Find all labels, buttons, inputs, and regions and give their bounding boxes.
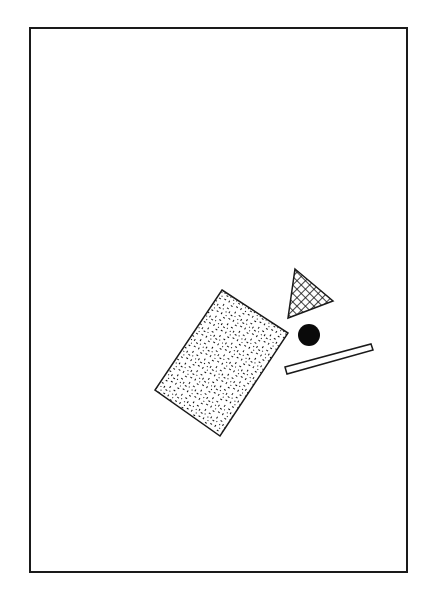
- diagram-canvas: [0, 0, 426, 596]
- thin-bar: [285, 344, 373, 374]
- black-circle: [298, 324, 320, 346]
- crosshatched-triangle: [288, 269, 333, 318]
- speckled-rectangle: [155, 290, 288, 436]
